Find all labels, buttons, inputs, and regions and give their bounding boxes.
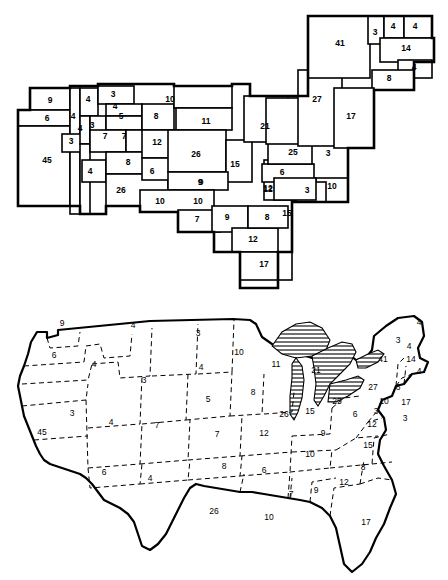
vote-label-ut: 4 bbox=[109, 417, 114, 427]
vote-label-vt: 3 bbox=[373, 27, 378, 37]
vote-label-mn: 10 bbox=[165, 94, 175, 104]
vote-label-sd: 8 bbox=[154, 111, 159, 121]
cell-sd bbox=[106, 104, 142, 116]
vote-label-or: 6 bbox=[45, 113, 50, 123]
electoral-vote-geographic-map: 9644310341121413441448278534771226152563… bbox=[0, 288, 448, 580]
vote-label-mn: 10 bbox=[234, 347, 244, 357]
vote-label-mi: 21 bbox=[260, 121, 270, 131]
cell-ne bbox=[106, 116, 142, 130]
vote-label-wi: 11 bbox=[272, 359, 281, 369]
vote-label-tx: 26 bbox=[116, 185, 126, 195]
vote-label-id: 4 bbox=[92, 359, 97, 369]
vote-label-la: 10 bbox=[155, 196, 165, 206]
vote-label-de: 15 bbox=[282, 208, 292, 218]
vote-label-la: 10 bbox=[264, 512, 274, 522]
cell-la bbox=[140, 190, 214, 212]
vote-label-ky: 6 bbox=[353, 409, 358, 419]
vote-label-ca: 45 bbox=[42, 155, 52, 165]
vote-label-ca: 45 bbox=[37, 427, 47, 437]
vote-label-wa: 9 bbox=[60, 318, 65, 328]
vote-label-wv: 3 bbox=[374, 406, 379, 416]
vote-label-ri: 4 bbox=[417, 366, 422, 376]
vote-label-ar: 6 bbox=[150, 166, 155, 176]
vote-label-mt: 4 bbox=[86, 94, 91, 104]
vote-label-nj: 17 bbox=[346, 111, 356, 121]
vote-label-ga: 9 bbox=[225, 212, 230, 222]
vote-label-ar: 6 bbox=[262, 465, 267, 475]
vote-label-md: 10 bbox=[327, 181, 337, 191]
vote-label-ne: 5 bbox=[119, 111, 124, 121]
vote-label-mo: 12 bbox=[152, 137, 162, 147]
vote-label-fl: 17 bbox=[361, 517, 371, 527]
vote-label-ms: 7 bbox=[289, 489, 294, 499]
vote-label-nd: 3 bbox=[196, 328, 201, 338]
vote-label-dc: 3 bbox=[403, 413, 408, 423]
vote-label-or: 6 bbox=[52, 350, 57, 360]
cell-nm bbox=[82, 160, 106, 182]
vote-label-nc: 3 bbox=[305, 185, 310, 195]
vote-label-in: 15 bbox=[230, 159, 240, 169]
vote-label-al: 9 bbox=[314, 485, 319, 495]
vote-label-ky: 6 bbox=[280, 167, 285, 177]
cell-me bbox=[404, 16, 432, 38]
vote-label-ut: 4 bbox=[78, 123, 83, 133]
vote-label-nd: 3 bbox=[111, 89, 116, 99]
vote-label-vt: 3 bbox=[396, 335, 401, 345]
vote-label-ga: 12 bbox=[339, 477, 349, 487]
vote-label-nh: 4 bbox=[391, 21, 396, 31]
vote-label-nm: 4 bbox=[88, 166, 93, 176]
vote-label-ma: 14 bbox=[406, 354, 416, 364]
vote-label-oh: 25 bbox=[332, 396, 342, 406]
vote-label-tx: 26 bbox=[209, 506, 219, 516]
vote-label-sc: 8 bbox=[265, 212, 270, 222]
vote-label-id: 4 bbox=[71, 111, 76, 121]
cell-de bbox=[274, 178, 316, 200]
vote-label-ok: 8 bbox=[126, 157, 131, 167]
vote-label-wy: 3 bbox=[142, 375, 147, 385]
vote-label-sd: 4 bbox=[199, 362, 204, 372]
electoral-vote-cartogram: 9644310458347711211234526152527413441448… bbox=[0, 0, 448, 292]
vote-label-ia: 9 bbox=[199, 177, 204, 187]
vote-label-il: 26 bbox=[191, 149, 201, 159]
vote-label-az: 6 bbox=[102, 467, 107, 477]
vote-label-ct: 8 bbox=[396, 382, 401, 392]
vote-label-nv: 3 bbox=[90, 120, 95, 130]
vote-label-ny: 41 bbox=[378, 354, 388, 364]
vote-label-ny: 41 bbox=[335, 38, 345, 48]
vote-label-mt: 4 bbox=[131, 320, 136, 330]
cell-co bbox=[90, 130, 126, 152]
vote-label-oh: 25 bbox=[288, 147, 298, 157]
cell-ct bbox=[372, 70, 414, 90]
vote-label-me: 4 bbox=[417, 317, 422, 327]
vote-label-pa: 27 bbox=[368, 382, 378, 392]
vote-label-ms: 10 bbox=[193, 196, 203, 206]
vote-label-wy: 4 bbox=[113, 101, 118, 111]
vote-label-tn: 9 bbox=[321, 428, 326, 438]
vote-label-il: 26 bbox=[279, 409, 289, 419]
vote-label-pa: 27 bbox=[312, 94, 322, 104]
vote-label-nc: 15 bbox=[363, 440, 373, 450]
vote-label-mi: 21 bbox=[311, 365, 321, 375]
vote-label-ks: 7 bbox=[122, 131, 127, 141]
vote-label-al: 7 bbox=[195, 214, 200, 224]
vote-label-va: 12 bbox=[367, 419, 377, 429]
vote-label-ia: 8 bbox=[251, 387, 256, 397]
vote-label-md: 10 bbox=[379, 396, 389, 406]
vote-label-az: 3 bbox=[69, 136, 74, 146]
vote-label-ok: 8 bbox=[222, 461, 227, 471]
vote-label-nv: 3 bbox=[70, 408, 75, 418]
vote-label-ma: 14 bbox=[401, 43, 411, 53]
vote-label-wa: 9 bbox=[48, 95, 53, 105]
vote-label-ct: 8 bbox=[387, 73, 392, 83]
vote-label-nm: 4 bbox=[148, 473, 153, 483]
vote-label-sc: 8 bbox=[361, 462, 366, 472]
vote-label-co: 7 bbox=[103, 131, 108, 141]
vote-label-ia2: 12 bbox=[263, 183, 273, 193]
vote-label-me: 4 bbox=[413, 21, 418, 31]
vote-label-wv: 3 bbox=[326, 148, 331, 158]
vote-label-ks: 7 bbox=[215, 429, 220, 439]
vote-label-ne: 5 bbox=[206, 394, 211, 404]
vote-label-fl: 17 bbox=[259, 259, 269, 269]
vote-label-tn2: 10 bbox=[305, 449, 315, 459]
vote-label-wi: 11 bbox=[202, 116, 211, 126]
